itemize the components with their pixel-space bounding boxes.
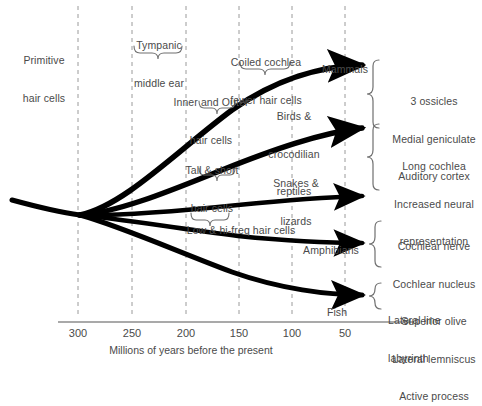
trunk-curve [12, 200, 80, 215]
brace-amphibian-traits [369, 221, 381, 267]
x-tick-150: 150 [216, 327, 262, 339]
brace-bird-reptile-traits [367, 124, 379, 190]
x-tick-300: 300 [55, 327, 101, 339]
x-tick-50: 50 [322, 327, 368, 339]
x-axis-title: Millions of years before the present [0, 344, 432, 356]
x-tick-250: 250 [109, 327, 155, 339]
fish-traits-list: Lateral line labyrinth [388, 289, 482, 389]
label-amphibians: Amphibians [295, 219, 367, 282]
x-tick-200: 200 [163, 327, 209, 339]
brace-fish-traits [369, 283, 381, 309]
x-tick-100: 100 [269, 327, 315, 339]
label-primitive-hair-cells: Primitive hair cells [8, 29, 80, 129]
